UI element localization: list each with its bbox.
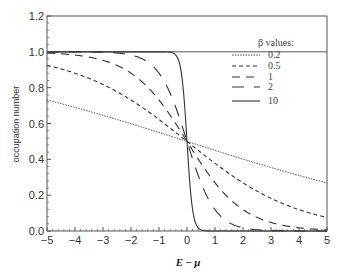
curves — [47, 52, 327, 231]
legend-label-0.5: 0.5 — [268, 60, 281, 71]
x-tick-label: −1 — [153, 234, 166, 246]
x-tick-label: 4 — [296, 234, 302, 246]
x-tick-label: 2 — [240, 234, 246, 246]
y-tick-label: 1.2 — [29, 10, 44, 22]
x-tick-label: 5 — [324, 234, 330, 246]
x-axis-title: E − μ — [175, 256, 201, 268]
fermi-dirac-chart: −5−4−3−2−10123450.00.20.40.60.81.01.2 β … — [0, 0, 340, 276]
y-tick-label: 0.0 — [29, 225, 44, 237]
x-tick-label: 0 — [184, 234, 190, 246]
y-tick-label: 0.6 — [29, 118, 44, 130]
x-tick-label: 1 — [212, 234, 218, 246]
legend: β values:0.20.51210 — [232, 37, 294, 106]
y-tick-label: 1.0 — [29, 46, 44, 58]
plot-frame — [47, 16, 327, 231]
y-axis-title: occupation number — [11, 86, 21, 163]
x-tick-label: −4 — [69, 234, 82, 246]
legend-label-0.2: 0.2 — [268, 49, 281, 60]
plot-area — [47, 16, 327, 231]
y-tick-label: 0.2 — [29, 189, 44, 201]
x-tick-label: −2 — [125, 234, 138, 246]
y-tick-label: 0.8 — [29, 82, 44, 94]
legend-title: β values: — [258, 37, 294, 48]
legend-label-2: 2 — [268, 81, 273, 92]
y-tick-label: 0.4 — [29, 153, 44, 165]
x-tick-label: 3 — [268, 234, 274, 246]
legend-label-10: 10 — [268, 95, 278, 106]
x-tick-label: −3 — [97, 234, 110, 246]
